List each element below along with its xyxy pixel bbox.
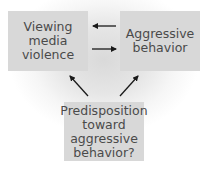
arrows-layer xyxy=(0,0,211,170)
arrow-predisposition-to-aggression xyxy=(120,76,138,96)
arrow-predisposition-to-viewing xyxy=(70,76,88,96)
